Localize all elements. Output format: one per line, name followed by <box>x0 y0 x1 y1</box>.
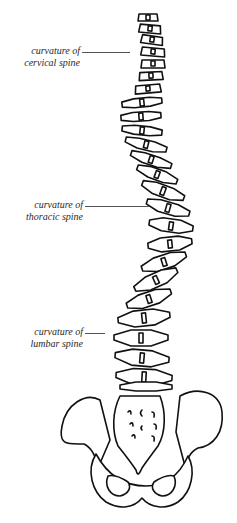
leader-line-cervical <box>82 52 130 53</box>
vertebrae-column <box>114 14 194 391</box>
leader-line-thoracic <box>85 206 149 207</box>
vertebra <box>122 124 163 137</box>
vertebra <box>117 307 170 328</box>
label-lumbar-line1: curvature of <box>10 326 83 338</box>
right-obturator <box>152 475 175 496</box>
vertebra <box>138 14 158 21</box>
vertebra <box>120 382 172 391</box>
vertebra <box>122 96 163 109</box>
label-thoracic: curvature of thoracic spine <box>10 199 83 223</box>
vertebra <box>147 235 192 254</box>
sacrum <box>114 396 165 474</box>
left-ilium <box>61 398 110 468</box>
label-cervical: curvature of cervical spine <box>10 45 80 69</box>
vertebra <box>114 348 169 369</box>
vertebra <box>141 60 165 68</box>
label-lumbar: curvature of lumbar spine <box>10 326 83 350</box>
vertebra <box>139 24 162 34</box>
leader-line-lumbar <box>85 333 105 334</box>
vertebra <box>141 47 166 57</box>
vertebra <box>121 111 162 123</box>
vertebra <box>139 71 163 80</box>
right-ilium <box>176 391 222 470</box>
vertebra <box>141 35 164 46</box>
vertebra <box>114 330 168 346</box>
spine-diagram <box>0 0 237 523</box>
label-thoracic-line2: thoracic spine <box>10 211 83 223</box>
label-cervical-line2: cervical spine <box>10 57 80 69</box>
vertebra <box>148 216 193 235</box>
left-obturator <box>107 475 130 496</box>
label-thoracic-line1: curvature of <box>10 199 83 211</box>
vertebra <box>135 84 162 94</box>
pelvis <box>61 391 222 507</box>
label-lumbar-line2: lumbar spine <box>10 338 83 350</box>
label-cervical-line1: curvature of <box>10 45 80 57</box>
